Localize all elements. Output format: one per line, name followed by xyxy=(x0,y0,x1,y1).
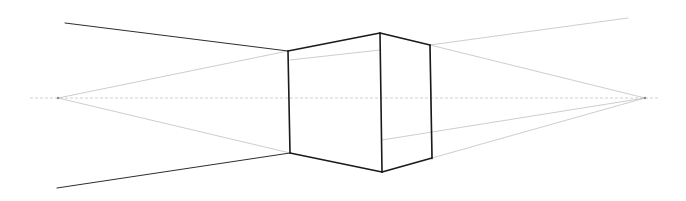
upper-left-ray xyxy=(65,23,288,51)
perspective-drawing xyxy=(0,0,686,201)
left-vanishing-point xyxy=(57,97,59,99)
box-bottom-left xyxy=(290,153,382,172)
left-vp-to-left-top xyxy=(58,51,288,98)
box-right-edge xyxy=(430,45,432,158)
left-front-guide xyxy=(290,50,380,60)
extension-lines xyxy=(57,23,290,188)
right-vp-to-right-bottom xyxy=(432,98,645,158)
box-top-left xyxy=(288,33,380,51)
left-vp-to-left-bottom xyxy=(58,98,290,153)
right-vp-to-front-inner xyxy=(382,98,645,140)
lower-left-ray xyxy=(57,153,290,188)
right-top-extension xyxy=(430,18,628,45)
box-bottom-right xyxy=(382,158,432,172)
box-top-right xyxy=(380,33,430,45)
box-left-edge xyxy=(288,51,290,153)
right-vanishing-point xyxy=(644,97,646,99)
box-outline xyxy=(288,33,432,172)
right-vp-to-right-top xyxy=(430,45,645,98)
box-front-edge xyxy=(380,33,382,172)
